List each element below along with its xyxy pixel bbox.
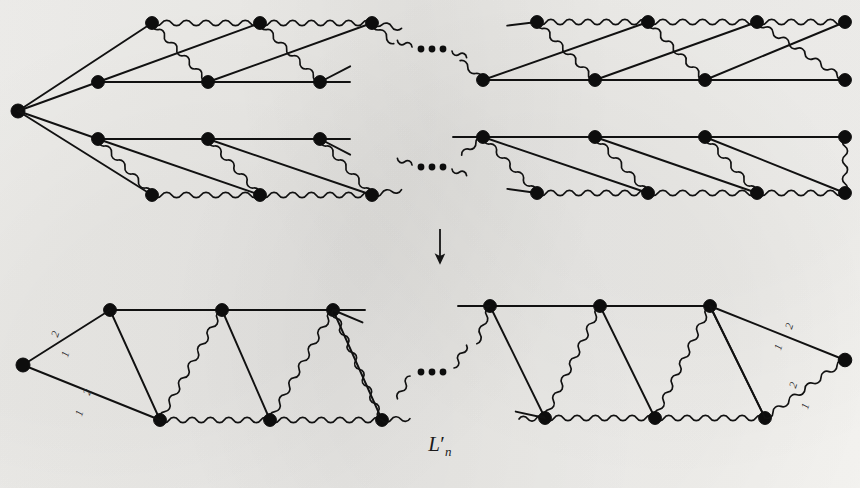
ladder-bottom-left-diagonal-edge <box>98 139 260 195</box>
ladder-result-right-vertex-top <box>594 300 607 313</box>
ladder-top-left-vertex-bottom <box>202 76 215 89</box>
ladder-bottom-right-vertex-bottom <box>531 187 544 200</box>
ladder-bottom-right-vertex-top <box>699 131 712 144</box>
ladder-top-left-vertex-top <box>366 17 379 30</box>
ladder-top-right-vertex-bottom <box>839 74 852 87</box>
ellipsis-dot <box>440 46 447 53</box>
ellipsis-dot <box>418 369 425 376</box>
ladder-bottom-right-vertex-bottom <box>642 187 655 200</box>
ladder-bottom-left-vertex-top <box>314 133 327 146</box>
ladder-bottom-left-vertex-top <box>202 133 215 146</box>
ladder-result-right-wavy-rung <box>544 306 600 418</box>
generated-graph-layer <box>11 16 852 427</box>
ellipsis-dot <box>418 164 425 171</box>
ladder-result-left-diagonal-edge <box>222 310 270 420</box>
ladder-top-right-wavy-rung <box>757 22 845 80</box>
graph-figure-svg <box>0 0 860 488</box>
ladder-result-right-wavy-rung <box>654 306 710 418</box>
ellipsis-result-left-tail <box>397 376 410 399</box>
ellipsis-top-right-tail <box>452 51 467 58</box>
ladder-bottom-right-vertex-top <box>477 131 490 144</box>
ellipsis-dot <box>429 46 436 53</box>
ladder-result-right-rail-bottom-segment <box>655 415 765 420</box>
ladder-result-right-rail-bottom-segment <box>545 415 655 420</box>
right-apex-upper-edge <box>710 306 845 360</box>
apex-edge-to-top-rail-2 <box>18 111 98 139</box>
ladder-top-right-rail-top-segment <box>648 19 757 24</box>
ladder-top-right-vertex-bottom <box>477 74 490 87</box>
ellipsis-result-right-tail <box>454 345 467 368</box>
ladder-top-right-vertex-top <box>642 16 655 29</box>
ladder-top-right-rail-top-segment <box>537 19 648 24</box>
ladder-result-right-diagonal-edge <box>490 306 545 418</box>
ladder-result-right-vertex-bottom <box>649 412 662 425</box>
ladder-bottom-right-rail-bottom-segment <box>648 190 757 195</box>
ladder-bottom-right-diagonal-edge <box>595 137 757 193</box>
ellipsis-top <box>418 46 447 53</box>
apex-edge-to-bottom-rail-2 <box>18 111 152 195</box>
apex-edge-to-bottom-rail <box>18 82 98 111</box>
ladder-top-left-vertex-top <box>146 17 159 30</box>
figure-caption: L′n <box>428 432 451 460</box>
ladder-top-right-diagonal-edge <box>483 22 648 80</box>
ellipsis-bottom-left-tail <box>397 158 412 165</box>
ladder-top-right-vertex-bottom <box>589 74 602 87</box>
caption-letter: L <box>428 432 440 456</box>
ladder-bottom-left-diagonal-edge <box>208 139 372 195</box>
ladder-top-left-rail-top-segment <box>260 20 372 25</box>
ladder-top-right-vertex-bottom <box>699 74 712 87</box>
ladder-top-left-vertex-bottom <box>92 76 105 89</box>
ellipsis-dot <box>440 164 447 171</box>
ladder-top-left-diagonal-edge <box>98 23 260 82</box>
ladder-result-right-diagonal-edge <box>600 306 655 418</box>
ladder-bottom-left-vertex-top <box>92 133 105 146</box>
ellipsis-dot <box>429 164 436 171</box>
ladder-bottom-right-diagonal-edge <box>483 137 648 193</box>
ladder-bottom-left-vertex-bottom <box>254 189 267 202</box>
ladder-top-right-diagonal-edge <box>595 22 757 80</box>
ladder-result-left-rail-bottom-segment <box>270 417 382 422</box>
left-apex-vertex <box>16 358 30 372</box>
ellipsis-top-left-tail <box>397 40 412 47</box>
ellipsis-dot <box>440 369 447 376</box>
ellipsis-dot <box>418 46 425 53</box>
ellipsis-result <box>418 369 447 376</box>
ladder-bottom-right-rail-bottom-segment <box>537 190 648 195</box>
ladder-result-left-wavy-rung <box>159 310 222 420</box>
result-right-diagonal-end <box>710 306 765 418</box>
ladder-top-left-vertex-top <box>254 17 267 30</box>
ladder-bottom-left-vertex-bottom <box>146 189 159 202</box>
ladder-bottom-right-vertex-bottom <box>839 187 852 200</box>
ladder-result-left-rail-bottom-segment <box>160 417 270 422</box>
ellipsis-bottom-right-tail <box>452 169 467 176</box>
ladder-top-right-vertex-top <box>751 16 764 29</box>
ladder-bottom-left-vertex-bottom <box>366 189 379 202</box>
ellipsis-bottom <box>418 164 447 171</box>
ladder-bottom-right-vertex-top <box>589 131 602 144</box>
ladder-top-left-rail-top-segment <box>152 20 260 25</box>
caption-subscript: n <box>445 444 452 459</box>
ladder-top-right-vertex-top <box>839 16 852 29</box>
ladder-top-right-diagonal-edge <box>705 22 845 80</box>
ladder-top-right-rail-top-segment <box>757 19 845 24</box>
ladder-result-left-vertex-bottom <box>264 414 277 427</box>
ladder-top-left-diagonal-edge <box>208 23 372 82</box>
ladder-bottom-left-rail-bottom-segment <box>260 192 372 197</box>
ladder-bottom-left-rail-bottom-segment <box>152 192 260 197</box>
ladder-result-left-vertex-top <box>216 304 229 317</box>
ladder-bottom-right-wavy-rung <box>842 137 847 193</box>
ladder-result-left-wavy-rung <box>269 310 333 420</box>
ladder-bottom-right-vertex-top <box>839 131 852 144</box>
ladder-top-right-vertex-top <box>531 16 544 29</box>
ellipsis-dot <box>429 369 436 376</box>
ladder-bottom-right-vertex-bottom <box>751 187 764 200</box>
apex-edge-to-top-rail <box>18 23 152 111</box>
ladder-top-left-vertex-bottom <box>314 76 327 89</box>
right-apex-lower-edge <box>765 360 845 419</box>
ladder-bottom-right-diagonal-edge <box>705 137 845 193</box>
right-apex-vertex <box>838 353 852 367</box>
ladder-bottom-right-rail-bottom-segment <box>757 190 845 195</box>
